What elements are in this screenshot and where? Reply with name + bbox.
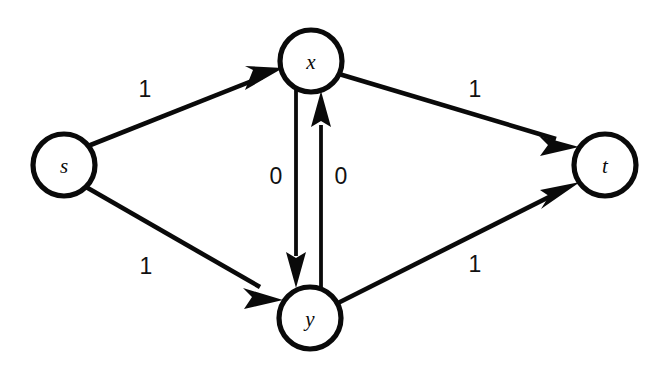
graph-canvas: s x y t 1 1 1 1 0 0 bbox=[0, 0, 664, 365]
node-t[interactable]: t bbox=[574, 134, 636, 196]
edge-y-to-t-arrowhead bbox=[540, 182, 580, 209]
edge-s-to-x-line bbox=[88, 77, 262, 146]
node-y-label: y bbox=[303, 307, 315, 331]
edge-y-to-t bbox=[338, 182, 580, 303]
edge-s-to-y-arrowhead bbox=[243, 288, 283, 309]
edge-x-to-y-arrowhead bbox=[286, 252, 306, 288]
node-x[interactable]: x bbox=[280, 30, 342, 92]
edge-y-to-x bbox=[311, 91, 331, 288]
edge-x-to-t bbox=[339, 74, 579, 156]
edge-s-to-x bbox=[88, 66, 283, 146]
node-y[interactable]: y bbox=[279, 287, 341, 349]
edge-label-y-to-x: 0 bbox=[335, 163, 348, 189]
edge-x-to-y bbox=[286, 90, 306, 288]
flow-network-diagram: s x y t 1 1 1 1 0 0 bbox=[0, 0, 664, 365]
node-s[interactable]: s bbox=[33, 134, 95, 196]
edge-label-s-to-x: 1 bbox=[139, 76, 152, 102]
edge-label-s-to-y: 1 bbox=[140, 253, 153, 279]
edge-x-to-t-arrowhead bbox=[539, 136, 579, 156]
edge-label-x-to-t: 1 bbox=[469, 76, 482, 102]
node-x-label: x bbox=[305, 50, 316, 74]
edge-x-to-t-line bbox=[339, 74, 556, 139]
edge-s-to-y bbox=[86, 187, 283, 309]
edge-label-y-to-t: 1 bbox=[469, 251, 482, 277]
edge-label-x-to-y: 0 bbox=[270, 163, 283, 189]
edge-y-to-t-line bbox=[338, 193, 557, 303]
edge-s-to-x-arrowhead bbox=[245, 66, 283, 90]
node-s-label: s bbox=[60, 154, 68, 178]
edge-y-to-x-arrowhead bbox=[311, 91, 331, 127]
edge-s-to-y-line bbox=[86, 187, 260, 287]
